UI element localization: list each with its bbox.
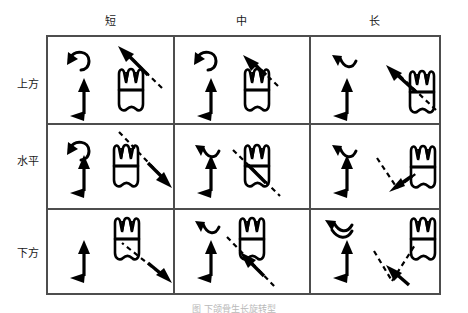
shallow-wave-icon (195, 145, 219, 157)
double-headed-vertical-arrow-icon (333, 155, 353, 198)
shallow-wave-icon (332, 55, 356, 67)
hook-curve-ccw-icon (67, 52, 89, 70)
molar-tooth-icon (119, 69, 143, 110)
figure-canvas (0, 0, 468, 313)
double-headed-vertical-arrow-icon (197, 240, 217, 283)
dashed-arrow-up-left-diagonal-icon (227, 237, 275, 287)
hook-curve-ccw-icon (67, 142, 89, 160)
cell-above-long (332, 55, 436, 121)
dashed-vee-arrow-up-right-icon (374, 245, 415, 285)
cell-below-medium (195, 218, 275, 287)
dashed-arrow-through-tooth-icon (233, 150, 280, 196)
molar-tooth-icon (411, 218, 435, 259)
double-headed-vertical-arrow-icon (70, 155, 90, 198)
double-headed-vertical-arrow-icon (333, 240, 353, 283)
cell-below-short (70, 218, 172, 283)
cell-above-short (67, 46, 162, 121)
dashed-arrow-down-right-icon (119, 132, 172, 188)
double-headed-vertical-arrow-icon (70, 240, 90, 283)
shallow-wave-icon (332, 145, 356, 157)
cell-below-long (325, 218, 435, 285)
molar-tooth-icon (411, 146, 435, 187)
shallow-wave-icon (195, 221, 219, 233)
molar-tooth-icon (114, 145, 138, 186)
dashed-arrow-up-left-from-lower-right-icon (122, 243, 172, 283)
double-headed-vertical-arrow-icon (197, 155, 217, 198)
figure-root: 短 中 长 上方 水平 下方 (0, 0, 468, 313)
dashed-arrow-up-left-icon (118, 46, 162, 88)
cell-above-medium (194, 52, 278, 121)
figure-caption: 图 下颌骨生长旋转型 (0, 302, 468, 313)
molar-tooth-icon (240, 218, 264, 259)
cell-horizontal-long (332, 145, 435, 198)
cell-horizontal-short (67, 132, 172, 198)
double-headed-vertical-arrow-icon (70, 78, 90, 121)
double-headed-vertical-arrow-icon (197, 78, 217, 121)
double-headed-vertical-arrow-icon (333, 78, 353, 121)
cell-horizontal-medium (195, 145, 280, 198)
double-wave-icon (325, 220, 352, 237)
hook-curve-ccw-icon (194, 52, 216, 70)
